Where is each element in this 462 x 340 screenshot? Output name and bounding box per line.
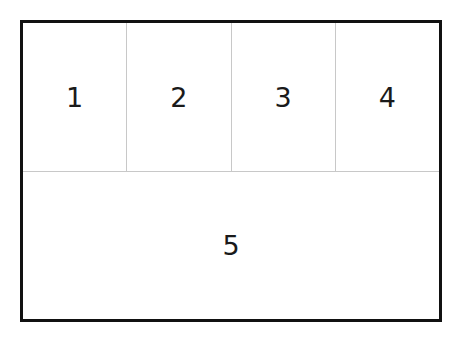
region-4-label: 4 [379, 84, 396, 111]
region-3-label: 3 [275, 84, 292, 111]
region-3: 3 [232, 23, 336, 171]
region-5: 5 [23, 172, 439, 319]
region-1: 1 [23, 23, 127, 171]
top-row: 1 2 3 4 [23, 23, 439, 172]
layout-frame: 1 2 3 4 5 [20, 20, 442, 322]
region-4: 4 [336, 23, 439, 171]
region-5-label: 5 [222, 232, 239, 259]
region-2-label: 2 [170, 84, 187, 111]
region-1-label: 1 [66, 84, 83, 111]
region-2: 2 [127, 23, 231, 171]
